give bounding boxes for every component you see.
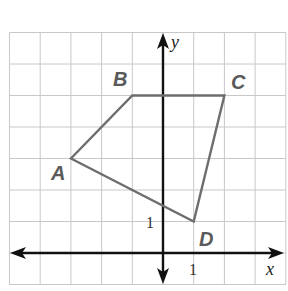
x-tick-label-1: 1 [189, 261, 197, 278]
vertex-label-b: B [113, 68, 127, 90]
vertex-label-d: D [199, 228, 213, 250]
vertex-label-c: C [231, 71, 246, 93]
coordinate-plane: x y 1 1 A B C D [0, 0, 288, 291]
x-axis-label: x [265, 259, 274, 279]
y-axis-label: y [169, 32, 179, 52]
vertex-label-a: A [50, 162, 65, 184]
y-tick-label-1: 1 [146, 214, 154, 231]
